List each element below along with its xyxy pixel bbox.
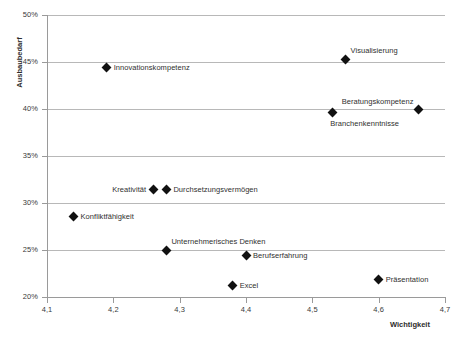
data-point-label: Excel <box>240 281 259 290</box>
gridline <box>47 109 445 110</box>
gridline <box>47 156 445 157</box>
x-tick-label: 4,7 <box>440 305 451 314</box>
x-tick-label: 4,3 <box>174 305 185 314</box>
y-tick-label: 20% <box>23 292 38 301</box>
data-point-label: Präsentation <box>386 275 429 284</box>
y-tick-mark <box>42 156 47 157</box>
data-point-label: Kreativität <box>112 185 146 194</box>
x-tick-label: 4,1 <box>42 305 53 314</box>
x-tick-mark <box>246 298 247 303</box>
y-tick-label: 35% <box>23 151 38 160</box>
y-tick-mark <box>42 109 47 110</box>
y-tick-mark <box>42 250 47 251</box>
y-tick-label: 50% <box>23 10 38 19</box>
data-point-label: Beratungskompetenz <box>342 97 414 106</box>
data-point-label: Branchenkenntnisse <box>330 119 399 128</box>
gridline <box>47 15 445 16</box>
y-tick-mark <box>42 203 47 204</box>
data-point-label: Unternehmerisches Denken <box>171 237 265 246</box>
x-tick-label: 4,4 <box>241 305 252 314</box>
y-tick-mark <box>42 62 47 63</box>
x-axis-title: Wichtigkeit <box>390 320 430 329</box>
data-point-label: Durchsetzungsvermögen <box>173 185 257 194</box>
x-tick-label: 4,6 <box>373 305 384 314</box>
x-tick-mark <box>445 298 446 303</box>
x-tick-mark <box>47 298 48 303</box>
data-point-label: Berufserfahrung <box>253 251 308 260</box>
y-tick-label: 30% <box>23 198 38 207</box>
x-tick-mark <box>379 298 380 303</box>
y-tick-label: 45% <box>23 57 38 66</box>
x-tick-label: 4,5 <box>307 305 318 314</box>
y-axis-title: Ausbaubedarf <box>15 28 24 98</box>
data-point-label: Konfliktfähigkeit <box>81 212 134 221</box>
y-axis-line <box>47 15 48 298</box>
scatter-chart: 50%45%40%35%30%25%20% 4,14,24,34,44,54,6… <box>0 0 465 343</box>
x-tick-mark <box>113 298 114 303</box>
x-tick-mark <box>312 298 313 303</box>
y-tick-label: 40% <box>23 104 38 113</box>
data-point-label: Visualisierung <box>351 46 398 55</box>
y-tick-mark <box>42 15 47 16</box>
data-point-label: Innovationskompetenz <box>114 63 190 72</box>
y-tick-label: 25% <box>23 245 38 254</box>
x-tick-label: 4,2 <box>108 305 119 314</box>
gridline <box>47 203 445 204</box>
x-tick-mark <box>180 298 181 303</box>
figure-caption <box>10 334 460 343</box>
